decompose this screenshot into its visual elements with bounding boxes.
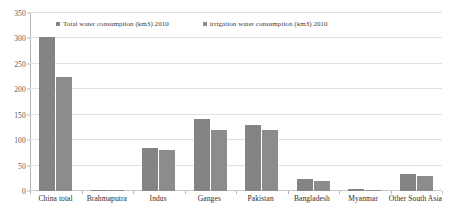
bar-group [391,13,443,191]
bar-group [185,13,237,191]
bar[interactable] [56,77,72,191]
x-axis-tick [185,191,186,194]
x-axis-tick [339,191,340,194]
y-axis-tick [27,140,30,141]
x-axis-labels: China totalBrahmaputraIndusGangesPakista… [30,194,442,203]
y-axis-tick [27,38,30,39]
y-axis-tick [27,89,30,90]
y-axis-tick-label: 50 [18,161,26,170]
x-axis-tick-label: Brahmaputra [81,194,132,203]
x-axis-tick-label: Ganges [184,194,235,203]
y-axis-labels: 050100150200250300350 [0,13,26,191]
y-axis-tick-label: 0 [22,187,26,196]
bar[interactable] [159,150,175,191]
y-axis-tick [27,165,30,166]
bar-group [288,13,340,191]
x-axis-tick-label: Other South Asia [389,194,442,203]
bar-group [82,13,134,191]
x-axis-tick-label: Myanmar [338,194,389,203]
bar[interactable] [108,190,124,191]
x-axis-tick [391,191,392,194]
x-axis-tick [30,191,31,194]
x-axis-tick [288,191,289,194]
bar-group [133,13,185,191]
bar[interactable] [348,189,364,191]
bar[interactable] [400,174,416,191]
y-axis-tick-label: 250 [14,59,26,68]
bar[interactable] [297,179,313,191]
x-axis-tick [442,191,443,194]
bar[interactable] [262,130,278,191]
bar[interactable] [365,190,381,191]
bar-groups [30,13,442,191]
bar-group [236,13,288,191]
x-axis-tick [82,191,83,194]
x-axis-tick [133,191,134,194]
x-axis-tick [236,191,237,194]
plot-area [30,13,442,191]
bar[interactable] [194,119,210,191]
y-axis-tick-label: 100 [14,136,26,145]
y-axis-tick [27,13,30,14]
bar[interactable] [314,181,330,191]
bar[interactable] [211,130,227,191]
y-axis-tick [27,63,30,64]
bar[interactable] [91,190,107,191]
y-axis-tick-label: 200 [14,85,26,94]
y-axis-tick [27,114,30,115]
bar-group [30,13,82,191]
x-axis-tick-label: Bangladesh [286,194,337,203]
y-axis-tick-label: 350 [14,9,26,18]
y-axis-tick-label: 300 [14,34,26,43]
bar-chart: Total water consumption (km3) 2010 irrig… [0,0,452,214]
bar[interactable] [142,148,158,191]
bar[interactable] [245,125,261,191]
x-axis-tick-label: China total [30,194,81,203]
bar[interactable] [39,37,55,191]
bar-group [339,13,391,191]
x-axis-tick-label: Pakistan [235,194,286,203]
bar[interactable] [417,176,433,191]
x-axis-tick-label: Indus [133,194,184,203]
y-axis-tick-label: 150 [14,110,26,119]
